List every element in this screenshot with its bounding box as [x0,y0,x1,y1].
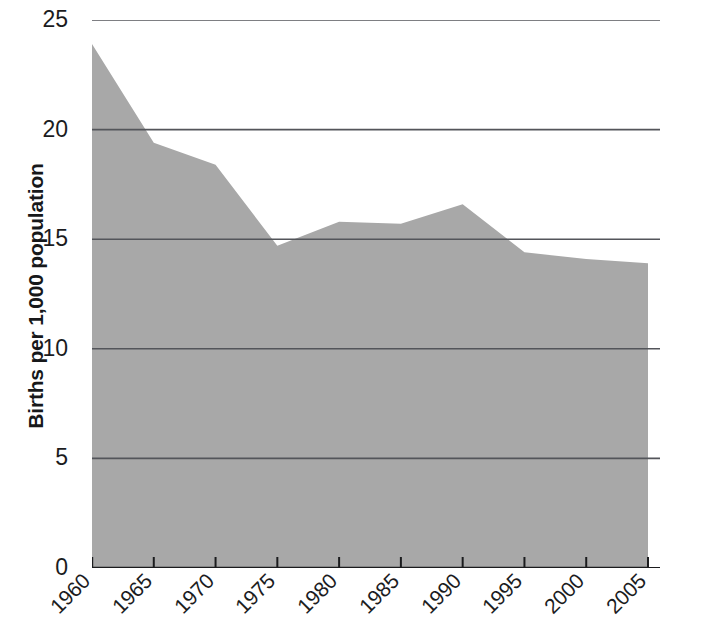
plot-area [92,20,660,568]
x-tick-label-1985: 1985 [354,569,403,618]
x-tick-label-1980: 1980 [293,569,342,618]
y-tick-label-10: 10 [22,337,68,360]
x-tick-label-2000: 2000 [540,569,589,618]
x-tick-label-1975: 1975 [231,569,280,618]
x-tick-label-1995: 1995 [478,569,527,618]
y-tick-label-5: 5 [22,446,68,469]
y-tick-label-20: 20 [22,118,68,141]
x-tick-label-1970: 1970 [169,569,218,618]
y-tick-label-25: 25 [22,8,68,31]
chart-container: Births per 1,000 population 0510152025 1… [0,0,704,638]
y-tick-label-0: 0 [22,556,68,579]
area-chart-svg [92,20,660,568]
y-axis-tick-labels: 0510152025 [22,0,68,638]
birth-rate-area-series [92,44,648,568]
x-tick-label-1965: 1965 [107,569,156,618]
x-tick-label-1990: 1990 [416,569,465,618]
x-tick-label-2005: 2005 [602,569,651,618]
y-tick-label-15: 15 [22,227,68,250]
